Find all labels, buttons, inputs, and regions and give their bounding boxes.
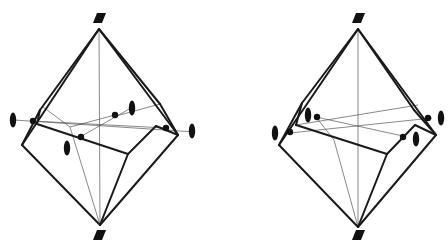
- two-fold-axis-ellipse-icon: [189, 124, 195, 139]
- two-fold-axis-ellipse-icon: [129, 101, 135, 116]
- two-fold-axis-ellipse-icon: [272, 126, 278, 141]
- crystal-edge: [279, 103, 302, 145]
- diagram-canvas: [0, 0, 448, 247]
- two-fold-axis-ellipse-icon: [438, 111, 444, 126]
- symmetry-center-dot-icon: [425, 115, 431, 121]
- symmetry-center-dot-icon: [112, 112, 118, 118]
- crystal-edge: [279, 29, 358, 145]
- bipyramid-figure: [0, 0, 448, 247]
- crystal-edge: [40, 29, 99, 110]
- symmetry-center-dot-icon: [400, 134, 406, 140]
- two-fold-axis-ellipse-icon: [413, 132, 419, 147]
- crystal-edge: [358, 29, 436, 135]
- crystal-edge: [358, 154, 387, 227]
- two-fold-axis-ellipse-icon: [305, 108, 311, 123]
- crystal-edge: [22, 145, 100, 225]
- crystal-edge: [100, 154, 128, 225]
- symmetry-center-dot-icon: [314, 114, 320, 120]
- symmetry-axis-line: [43, 107, 70, 127]
- symmetry-center-dot-icon: [78, 134, 84, 140]
- four-fold-axis-parallelogram-icon: [93, 230, 106, 240]
- four-fold-axis-parallelogram-icon: [352, 13, 365, 23]
- two-fold-axis-ellipse-icon: [64, 141, 70, 156]
- symmetry-axis-line: [99, 29, 100, 225]
- crystal-edge: [414, 110, 436, 135]
- symmetry-center-dot-icon: [287, 129, 293, 135]
- crystal-edge: [22, 110, 40, 145]
- four-fold-axis-parallelogram-icon: [93, 13, 106, 23]
- crystal-edge: [387, 125, 415, 154]
- four-fold-axis-parallelogram-icon: [352, 230, 365, 240]
- symmetry-axis-line: [116, 104, 160, 116]
- crystal-edge: [279, 145, 358, 227]
- symmetry-axis-line: [296, 105, 418, 125]
- two-fold-axis-ellipse-icon: [10, 113, 16, 128]
- symmetry-center-dot-icon: [163, 125, 169, 131]
- symmetry-center-dot-icon: [30, 118, 36, 124]
- crystal-edge: [302, 29, 358, 103]
- crystal-edge: [128, 126, 156, 154]
